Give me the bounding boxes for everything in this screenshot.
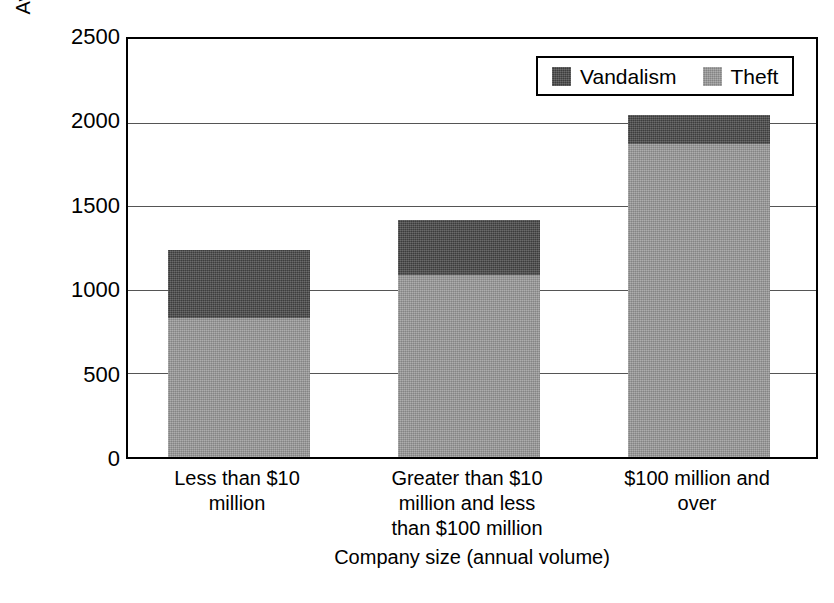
x-tick-label-1: Greater than $10 million and less than $… [356,466,578,541]
bar-greater-than-10-less-than-100-million[interactable] [398,220,540,457]
y-tick-label-1000: 1000 [38,279,120,301]
plot-area [126,37,818,459]
bar-segment-vandalism [168,250,310,319]
bar-less-than-10-million[interactable] [168,250,310,457]
legend-label-vandalism: Vandalism [580,66,677,87]
legend-swatch-theft [703,67,722,86]
bar-segment-vandalism [398,220,540,274]
chart-legend: Vandalism Theft [536,56,794,96]
bar-100-million-and-over[interactable] [628,115,770,457]
bar-segment-theft [628,144,770,457]
figure-caption [30,588,820,603]
plot-inner [128,39,816,457]
y-axis-tick-labels: 0 500 1000 1500 2000 2500 [38,0,120,603]
y-tick-label-1500: 1500 [38,195,120,217]
bar-segment-theft [398,275,540,457]
y-axis-title: Average loss per $1 million of work [6,0,40,74]
x-tick-label-0: Less than $10 million [126,466,348,516]
y-tick-label-2500: 2500 [38,26,120,48]
y-tick-label-0: 0 [38,448,120,470]
legend-entry-theft[interactable]: Theft [703,66,779,87]
bar-segment-theft [168,318,310,457]
x-axis-tick-labels: Less than $10 million Greater than $10 m… [126,466,818,544]
y-tick-label-500: 500 [38,364,120,386]
legend-entry-vandalism[interactable]: Vandalism [552,66,677,87]
y-tick-label-2000: 2000 [38,110,120,132]
x-tick-label-2: $100 million and over [586,466,808,516]
legend-label-theft: Theft [731,66,779,87]
chart-figure: Average loss per $1 million of work 0 50… [0,0,834,603]
x-axis-title: Company size (annual volume) [126,546,818,569]
bar-segment-vandalism [628,115,770,144]
legend-swatch-vandalism [552,67,571,86]
